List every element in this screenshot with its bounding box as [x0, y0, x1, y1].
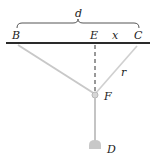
label-x: x [112, 29, 119, 42]
brace-d [17, 19, 139, 28]
label-F: F [103, 90, 112, 103]
label-E: E [89, 29, 98, 42]
label-D: D [106, 143, 116, 156]
string-CF [95, 46, 137, 94]
diagram-canvas: d B E x C r F D [0, 0, 159, 167]
string-BF [18, 45, 95, 94]
label-C: C [134, 29, 143, 42]
label-d: d [75, 7, 82, 20]
pulley-geometry-diagram: d B E x C r F D [0, 0, 159, 167]
label-B: B [11, 29, 20, 42]
weight-D [89, 140, 101, 149]
label-r: r [121, 66, 127, 79]
